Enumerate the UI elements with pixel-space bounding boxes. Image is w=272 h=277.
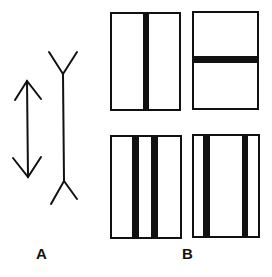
box-top-right	[193, 12, 258, 109]
panel-a-label: A	[36, 245, 47, 262]
box-bottom-right	[193, 135, 259, 237]
fins-shaft	[49, 52, 77, 204]
box-bottom-left	[111, 136, 181, 238]
panel-b-label: B	[182, 245, 193, 262]
arrow-shaft-arrowheads	[13, 81, 41, 177]
box-top-left	[111, 13, 180, 110]
figure-canvas	[0, 0, 272, 277]
